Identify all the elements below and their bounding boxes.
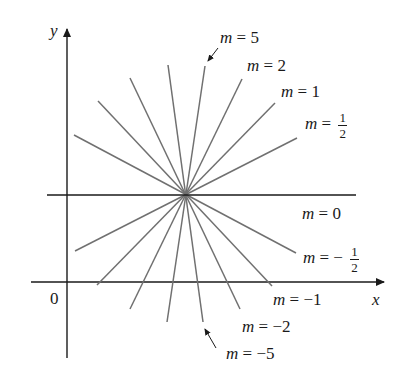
label-m-neg-5: m = −5 [226,345,274,362]
label-eq: = [322,114,332,133]
fraction-denominator: 2 [338,126,347,140]
label-value: 2 [277,56,286,75]
pointer-arrow-m-neg-5 [205,329,216,348]
label-value: −1 [303,290,321,309]
label-eq: = [259,317,269,336]
label-m-symbol: m [273,290,285,309]
label-m-5: m = 5 [220,29,259,46]
label-value: −2 [272,317,290,336]
slope-family-diagram: y x 0 m = 5 m = 2 m = 1 m = 1 2 m = 0 m … [0,0,404,377]
label-eq: = [264,56,274,75]
label-eq: = [298,82,308,101]
label-eq: = [237,28,247,47]
label-m-half: m = 1 2 [305,111,347,140]
label-fraction: 1 2 [338,111,347,140]
label-eq: = [319,204,329,223]
label-m-1: m = 1 [281,83,320,100]
label-m-symbol: m [242,317,254,336]
pointer-arrow-m-5 [208,48,218,61]
label-m-symbol: m [226,344,238,363]
label-m-symbol: m [302,204,314,223]
slope-lines [74,65,297,322]
label-m-2: m = 2 [247,57,286,74]
label-value: 1 [311,82,320,101]
label-m-neg-1: m = −1 [273,291,321,308]
label-value: −5 [256,344,274,363]
label-m-symbol: m [303,248,315,267]
x-axis-label: x [372,291,380,308]
origin-label: 0 [50,290,59,307]
label-m-0: m = 0 [302,205,341,222]
fraction-numerator: 1 [338,111,347,126]
label-m-neg-half: m = − 1 2 [303,245,359,274]
label-eq: = − [320,248,343,267]
label-m-symbol: m [220,28,232,47]
y-axis-label: y [50,22,58,39]
label-eq: = [290,290,300,309]
label-m-symbol: m [281,82,293,101]
label-m-symbol: m [305,114,317,133]
diagram-graphics [0,0,404,377]
label-value: 0 [332,204,341,223]
label-eq: = [243,344,253,363]
label-m-neg-2: m = −2 [242,318,290,335]
fraction-numerator: 1 [350,245,359,260]
label-fraction: 1 2 [350,245,359,274]
label-value: 5 [250,28,259,47]
fraction-denominator: 2 [350,260,359,274]
label-m-symbol: m [247,56,259,75]
